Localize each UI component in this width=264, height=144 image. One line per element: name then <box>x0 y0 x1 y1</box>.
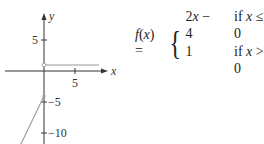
formula-cases: 2x − 4 if x ≤ 0 1 if x > 0 <box>185 8 264 77</box>
y-axis-arrow-icon <box>42 13 47 20</box>
closed-point <box>42 94 45 97</box>
y-tick-label: −5 <box>48 95 61 109</box>
case-cond: if x ≤ 0 <box>234 8 264 42</box>
brace-icon: { <box>170 26 181 60</box>
x-tick-label: 5 <box>72 76 78 90</box>
line-2x-minus-4 <box>20 96 44 144</box>
y-tick-label: −10 <box>48 126 67 140</box>
piecewise-formula: f(x) = { 2x − 4 if x ≤ 0 1 if x > 0 <box>135 8 264 77</box>
case-expr: 2x − 4 <box>185 8 220 42</box>
formula-lhs: f(x) = <box>135 27 162 59</box>
open-point <box>42 63 46 67</box>
x-axis-arrow-icon <box>101 69 108 74</box>
case-cond: if x > 0 <box>234 43 264 77</box>
function-graph: 5 5 −5 −10 x y <box>0 0 135 144</box>
x-axis-label: x <box>110 64 117 78</box>
y-axis-label: y <box>48 9 55 23</box>
case-expr: 1 <box>185 43 220 77</box>
y-tick-label: 5 <box>32 33 38 47</box>
